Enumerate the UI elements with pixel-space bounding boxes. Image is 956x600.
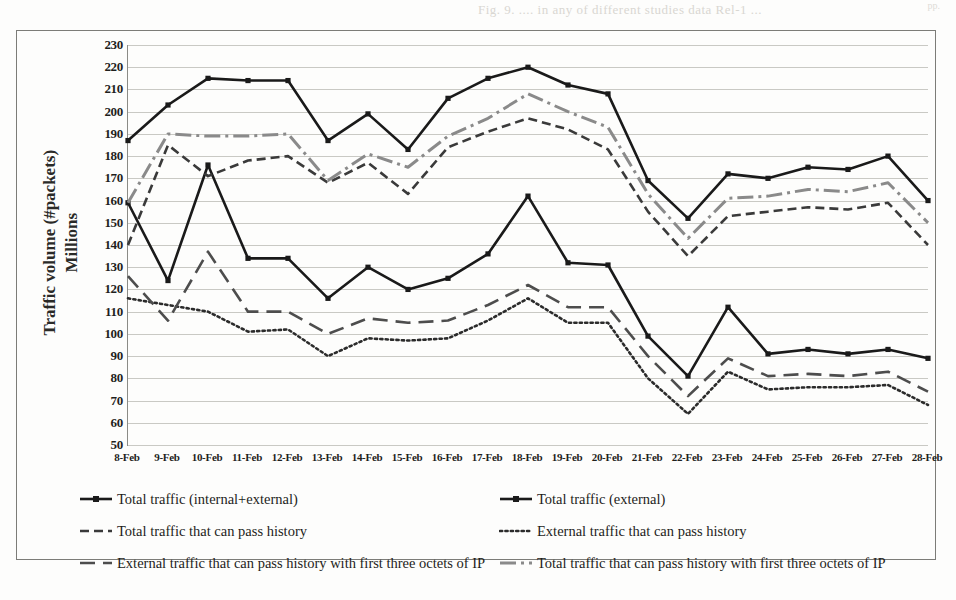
- data-point-marker: [845, 167, 850, 172]
- y-axis-tick-label: 210: [104, 81, 123, 97]
- data-point-marker: [405, 287, 410, 292]
- data-point-marker: [445, 96, 450, 101]
- data-point-marker: [525, 194, 530, 199]
- data-point-marker: [725, 305, 730, 310]
- chart-plot-wrapper: Traffic volume (#packets) Millions 23022…: [17, 31, 937, 561]
- data-point-marker: [645, 178, 650, 183]
- data-point-marker: [845, 351, 850, 356]
- data-point-marker: [485, 251, 490, 256]
- data-point-marker: [925, 198, 930, 203]
- data-point-marker: [885, 154, 890, 159]
- legend-item-label: Total traffic (external): [537, 492, 665, 507]
- legend-item[interactable]: Total traffic (internal+external): [79, 492, 499, 507]
- x-axis-tick-label: 24-Feb: [752, 451, 783, 463]
- data-point-marker: [765, 351, 770, 356]
- y-axis-tick-label: 120: [104, 281, 123, 297]
- legend-item[interactable]: Total traffic that can pass history with…: [499, 556, 909, 571]
- y-axis-tick-label: 180: [104, 148, 123, 164]
- dotted-line-icon: [499, 524, 533, 538]
- data-point-marker: [245, 78, 250, 83]
- solid-marker-line-icon: [79, 492, 113, 506]
- page-bleedthrough-right-text: pp.: [928, 0, 941, 11]
- data-point-marker: [325, 296, 330, 301]
- dashed-line-icon: [79, 524, 113, 538]
- y-axis-tick-label: 190: [104, 126, 123, 142]
- x-axis-tick-label: 19-Feb: [552, 451, 583, 463]
- legend-item-label: Total traffic that can pass history: [117, 524, 307, 539]
- legend-item-label: External traffic that can pass history w…: [117, 556, 485, 571]
- data-point-marker: [765, 176, 770, 181]
- x-axis-tick-label: 16-Feb: [432, 451, 463, 463]
- data-point-marker: [205, 162, 210, 167]
- y-axis-tick-label: 90: [111, 348, 123, 364]
- data-point-marker: [565, 260, 570, 265]
- data-point-marker: [205, 76, 210, 81]
- data-point-marker: [325, 138, 330, 143]
- plot-area: [127, 45, 928, 446]
- data-point-marker: [645, 334, 650, 339]
- legend-item[interactable]: Total traffic that can pass history: [79, 524, 499, 539]
- x-axis-tick-label: 22-Feb: [672, 451, 703, 463]
- data-point-marker: [165, 102, 170, 107]
- x-axis-tick-labels: 8-Feb9-Feb10-Feb11-Feb12-Feb13-Feb14-Feb…: [127, 451, 927, 475]
- data-point-marker: [125, 138, 130, 143]
- data-point-marker: [805, 347, 810, 352]
- page-bleedthrough-top-text: Fig. 9. .... in any of different studies…: [300, 2, 940, 18]
- y-axis-tick-label: 200: [104, 104, 123, 120]
- data-point-marker: [365, 111, 370, 116]
- series-line: [128, 298, 928, 414]
- y-axis-tick-label: 80: [111, 370, 123, 386]
- x-axis-tick-label: 10-Feb: [192, 451, 223, 463]
- y-axis-tick-label: 170: [104, 170, 123, 186]
- figure-frame: Traffic volume (#packets) Millions 23022…: [16, 30, 936, 560]
- x-axis-tick-label: 14-Feb: [352, 451, 383, 463]
- legend-item-label: Total traffic (internal+external): [117, 492, 298, 507]
- y-axis-tick-label: 220: [104, 59, 123, 75]
- legend-item[interactable]: External traffic that can pass history: [499, 524, 909, 539]
- data-point-marker: [165, 278, 170, 283]
- data-point-marker: [885, 347, 890, 352]
- legend-item-label: External traffic that can pass history: [537, 524, 747, 539]
- data-point-marker: [605, 91, 610, 96]
- y-axis-tick-label: 60: [111, 415, 123, 431]
- y-axis-tick-label: 130: [104, 259, 123, 275]
- y-axis-tick-label: 70: [111, 393, 123, 409]
- x-axis-tick-label: 21-Feb: [632, 451, 663, 463]
- data-point-marker: [285, 256, 290, 261]
- data-point-marker: [565, 82, 570, 87]
- x-axis-tick-label: 13-Feb: [312, 451, 343, 463]
- data-point-marker: [685, 216, 690, 221]
- x-axis-tick-label: 25-Feb: [792, 451, 823, 463]
- y-axis-tick-labels: 2302202102001901801701601501401301201101…: [77, 31, 123, 451]
- y-axis-tick-label: 140: [104, 237, 123, 253]
- y-axis-tick-label: 110: [105, 304, 123, 320]
- x-axis-tick-label: 17-Feb: [472, 451, 503, 463]
- x-axis-tick-label: 20-Feb: [592, 451, 623, 463]
- y-axis-tick-label: 150: [104, 215, 123, 231]
- x-axis-tick-label: 15-Feb: [392, 451, 423, 463]
- legend-item[interactable]: External traffic that can pass history w…: [79, 556, 499, 571]
- series-line: [128, 252, 928, 396]
- series-2: [128, 118, 928, 256]
- data-point-marker: [445, 276, 450, 281]
- gray-dash-line-icon: [499, 556, 533, 570]
- series-line: [128, 118, 928, 256]
- data-point-marker: [405, 147, 410, 152]
- series-3: [128, 298, 928, 414]
- y-axis-tick-label: 230: [104, 37, 123, 53]
- data-point-marker: [285, 78, 290, 83]
- data-point-marker: [365, 265, 370, 270]
- data-point-marker: [525, 65, 530, 70]
- x-axis-tick-label: 18-Feb: [512, 451, 543, 463]
- chart-series-lines: [128, 45, 928, 445]
- x-axis-tick-label: 8-Feb: [114, 451, 139, 463]
- x-axis-tick-label: 9-Feb: [154, 451, 179, 463]
- y-axis-tick-label: 100: [104, 326, 123, 342]
- x-axis-tick-label: 11-Feb: [232, 451, 262, 463]
- x-axis-tick-label: 27-Feb: [872, 451, 903, 463]
- longdash-line-icon: [79, 556, 113, 570]
- series-4: [128, 252, 928, 396]
- data-point-marker: [725, 171, 730, 176]
- legend-item[interactable]: Total traffic (external): [499, 492, 909, 507]
- series-1: [125, 162, 930, 378]
